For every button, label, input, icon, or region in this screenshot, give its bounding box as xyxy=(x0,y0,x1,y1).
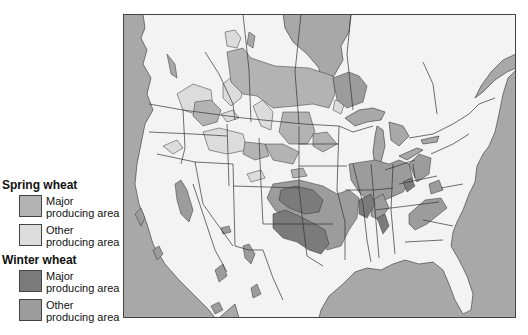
legend-label-line2: producing area xyxy=(46,311,119,323)
map-legend: Spring wheat Major producing area Other … xyxy=(2,178,120,328)
map-canvas xyxy=(123,14,516,318)
legend-label-line2: producing area xyxy=(46,236,119,248)
legend-label-line1: Other xyxy=(46,224,119,236)
legend-group-winter-wheat: Winter wheat Major producing area Other … xyxy=(2,253,120,323)
legend-label-line2: producing area xyxy=(46,282,119,294)
legend-title-spring-wheat: Spring wheat xyxy=(2,178,120,192)
wheat-map xyxy=(123,14,516,318)
legend-item-spring-major: Major producing area xyxy=(2,195,120,219)
swatch-spring-major xyxy=(19,195,42,217)
legend-label-line1: Other xyxy=(46,299,119,311)
legend-group-spring-wheat: Spring wheat Major producing area Other … xyxy=(2,178,120,248)
swatch-winter-other xyxy=(19,299,42,321)
legend-label-line2: producing area xyxy=(46,207,119,219)
legend-title-winter-wheat: Winter wheat xyxy=(2,253,120,267)
legend-item-spring-other: Other producing area xyxy=(2,224,120,248)
legend-item-winter-major: Major producing area xyxy=(2,270,120,294)
legend-label-line1: Major xyxy=(46,195,119,207)
swatch-spring-other xyxy=(19,224,42,246)
legend-label-line1: Major xyxy=(46,270,119,282)
swatch-winter-major xyxy=(19,270,42,292)
legend-item-winter-other: Other producing area xyxy=(2,299,120,323)
